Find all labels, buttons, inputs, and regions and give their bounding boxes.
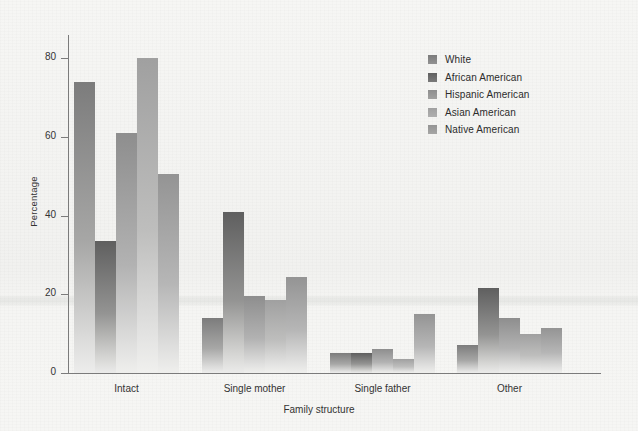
bar-hispanic-american-other bbox=[499, 318, 520, 373]
y-axis-tick bbox=[61, 373, 68, 374]
bar-hispanic-american-single-mother bbox=[244, 296, 265, 373]
bar-asian-american-single-mother bbox=[265, 300, 286, 373]
bar-african-american-single-father bbox=[351, 353, 372, 373]
y-axis-tick-label: 60 bbox=[26, 130, 56, 141]
x-axis-label: Family structure bbox=[0, 404, 638, 415]
bar-asian-american-single-father bbox=[393, 359, 414, 373]
legend-swatch-white bbox=[428, 55, 437, 64]
y-axis-tick bbox=[61, 216, 68, 217]
bar-asian-american-other bbox=[520, 334, 541, 373]
legend-label: Asian American bbox=[445, 107, 516, 118]
y-axis-tick-label: 20 bbox=[26, 287, 56, 298]
legend-label: Native American bbox=[445, 124, 519, 135]
bar-white-single-mother bbox=[202, 318, 223, 373]
y-axis-tick-label: 0 bbox=[26, 366, 56, 377]
legend-swatch-native-american bbox=[428, 125, 437, 134]
y-axis-tick bbox=[61, 137, 68, 138]
y-axis-label: Percentage bbox=[28, 147, 39, 257]
bar-group bbox=[330, 57, 435, 373]
legend-swatch-african-american bbox=[428, 73, 437, 82]
legend-label: White bbox=[445, 54, 471, 65]
legend-item: White bbox=[428, 54, 530, 65]
bar-white-other bbox=[457, 345, 478, 373]
bar-native-american-intact bbox=[158, 174, 179, 373]
bar-group bbox=[74, 57, 179, 373]
x-axis-tick-label: Other bbox=[430, 383, 590, 394]
y-axis-tick-label: 80 bbox=[26, 51, 56, 62]
y-axis-line bbox=[68, 35, 69, 374]
bar-native-american-single-mother bbox=[286, 277, 307, 373]
chart-legend: WhiteAfrican AmericanHispanic AmericanAs… bbox=[428, 54, 530, 142]
bar-asian-american-intact bbox=[137, 58, 158, 373]
legend-item: African American bbox=[428, 72, 530, 83]
legend-swatch-hispanic-american bbox=[428, 90, 437, 99]
bar-group bbox=[202, 57, 307, 373]
legend-label: Hispanic American bbox=[445, 89, 530, 100]
x-axis-line bbox=[68, 373, 601, 374]
legend-item: Native American bbox=[428, 124, 530, 135]
bar-white-intact bbox=[74, 82, 95, 373]
bar-african-american-intact bbox=[95, 241, 116, 373]
y-axis-tick bbox=[61, 58, 68, 59]
legend-item: Asian American bbox=[428, 107, 530, 118]
bar-african-american-other bbox=[478, 288, 499, 373]
y-axis-tick bbox=[61, 294, 68, 295]
bar-native-american-other bbox=[541, 328, 562, 373]
bar-chart: 020406080 Percentage Family structure In… bbox=[0, 0, 638, 431]
bar-african-american-single-mother bbox=[223, 212, 244, 373]
legend-item: Hispanic American bbox=[428, 89, 530, 100]
bar-native-american-single-father bbox=[414, 314, 435, 373]
legend-swatch-asian-american bbox=[428, 108, 437, 117]
bar-hispanic-american-single-father bbox=[372, 349, 393, 373]
bar-white-single-father bbox=[330, 353, 351, 373]
bar-hispanic-american-intact bbox=[116, 133, 137, 373]
legend-label: African American bbox=[445, 72, 522, 83]
